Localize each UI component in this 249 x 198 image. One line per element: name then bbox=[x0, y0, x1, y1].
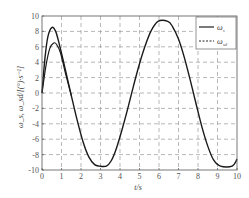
y-tick-label: 8 bbox=[35, 27, 39, 36]
x-tick-label: 4 bbox=[118, 172, 122, 181]
line-chart: 012345678910 -10-8-6-4-20246810 t/s ω_s,… bbox=[0, 0, 249, 198]
x-tick-label: 9 bbox=[216, 172, 220, 181]
y-tick-label: -10 bbox=[28, 166, 39, 175]
y-tick-label: 0 bbox=[35, 89, 39, 98]
y-tick-label: 6 bbox=[35, 43, 39, 52]
x-tick-label: 5 bbox=[138, 172, 142, 181]
y-tick-label: 10 bbox=[31, 12, 39, 21]
x-tick-label: 2 bbox=[79, 172, 83, 181]
x-axis-label: t/s bbox=[134, 183, 142, 192]
y-tick-label: -6 bbox=[32, 135, 39, 144]
y-tick-label: -8 bbox=[32, 151, 39, 160]
legend: ωs ωsd bbox=[196, 17, 236, 49]
x-tick-label: 7 bbox=[177, 172, 181, 181]
y-tick-label: -4 bbox=[32, 120, 39, 129]
y-tick-label: -2 bbox=[32, 104, 39, 113]
x-tick-label: 8 bbox=[196, 172, 200, 181]
x-tick-label: 10 bbox=[233, 172, 241, 181]
x-tick-label: 3 bbox=[99, 172, 103, 181]
y-tick-label: 4 bbox=[35, 58, 39, 67]
x-tick-label: 0 bbox=[40, 172, 44, 181]
y-tick-label: 2 bbox=[35, 74, 39, 83]
x-tick-label: 6 bbox=[157, 172, 161, 181]
y-axis-label: ω_s, ω_sd/[(°)·s⁻¹] bbox=[16, 66, 25, 128]
legend-box bbox=[196, 17, 236, 49]
x-tick-label: 1 bbox=[60, 172, 64, 181]
